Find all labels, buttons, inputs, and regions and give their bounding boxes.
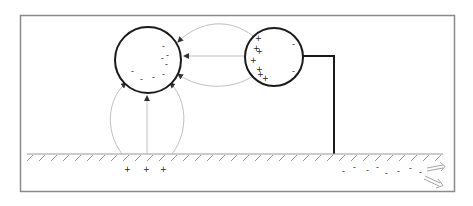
left-sphere (115, 27, 181, 93)
svg-text:-: - (366, 166, 369, 175)
svg-text:-: - (292, 40, 295, 49)
svg-text:-: - (131, 67, 134, 76)
svg-text:-: - (162, 70, 165, 79)
svg-text:-: - (385, 169, 388, 178)
diagram: - - - - - - - - + + + + + + + - - + + + … (0, 0, 473, 206)
ground-positive-charges: + + + (124, 165, 167, 174)
svg-text:-: - (376, 163, 379, 172)
svg-text:+: + (250, 56, 257, 65)
svg-text:-: - (342, 167, 345, 176)
svg-text:+: + (255, 34, 262, 43)
svg-text:-: - (419, 168, 422, 177)
svg-text:-: - (165, 60, 168, 69)
svg-text:+: + (262, 74, 269, 83)
svg-text:-: - (409, 164, 412, 173)
svg-text:-: - (353, 163, 356, 172)
svg-text:-: - (292, 67, 295, 76)
svg-text:+: + (256, 47, 263, 56)
svg-text:-: - (140, 75, 143, 84)
ground-negative-charges: - - - - - - - - (342, 163, 422, 178)
svg-text:-: - (161, 54, 164, 63)
svg-text:+: + (160, 165, 167, 174)
svg-text:-: - (152, 73, 155, 82)
flow-arrows (424, 162, 445, 188)
ground-wire (303, 56, 334, 154)
field-lines-horizontal (178, 24, 253, 86)
svg-text:+: + (143, 165, 150, 174)
svg-text:-: - (162, 42, 165, 51)
ground-hatching (27, 155, 441, 161)
svg-text:+: + (124, 165, 131, 174)
svg-text:-: - (397, 167, 400, 176)
frame (21, 16, 455, 192)
svg-text:-: - (166, 51, 169, 60)
